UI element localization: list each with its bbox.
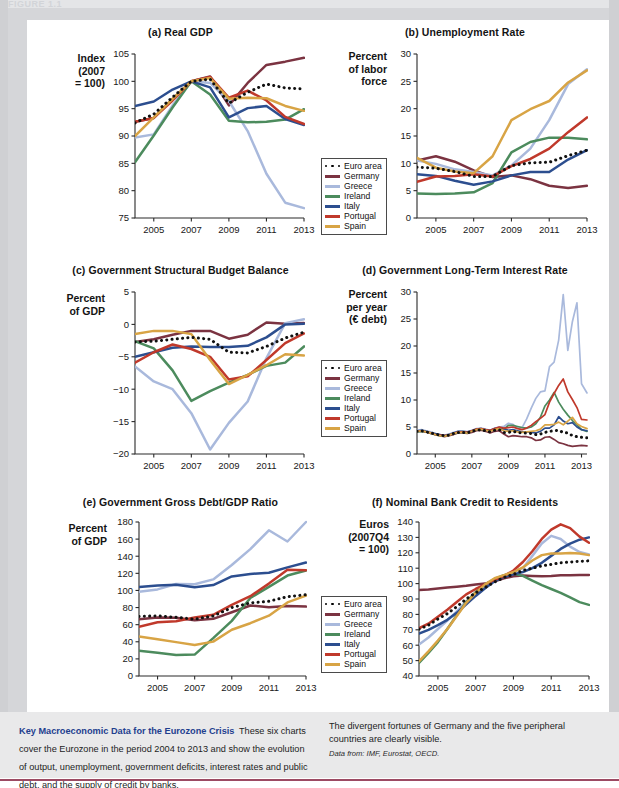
chart-svg-a: 758085909510010520052007200920112013: [43, 26, 318, 254]
y-tick-label: 95: [118, 103, 129, 114]
y-tick-label: 0: [406, 212, 411, 223]
series-line-germany: [135, 322, 304, 341]
y-tick-label: 75: [118, 212, 129, 223]
x-tick-label: 2007: [181, 224, 202, 235]
x-tick-label: 2005: [425, 460, 446, 471]
chart-panel-b: (b) Unemployment RatePercent of labor fo…: [321, 26, 609, 254]
x-tick-label: 2013: [293, 224, 314, 235]
x-tick-label: 2013: [295, 682, 316, 693]
y-tick-label: 25: [400, 313, 411, 324]
y-tick-label: −10: [113, 384, 129, 395]
figure-inner-panel: (a) Real GDPIndex (2007 = 100)7580859095…: [27, 20, 609, 712]
chart-svg-c: −20−15−10−50520052007200920112013: [43, 264, 318, 490]
y-tick-label: 100: [117, 585, 133, 596]
chart-panel-f: (f) Nominal Bank Credit to ResidentsEuro…: [321, 496, 609, 712]
y-tick-label: 80: [122, 602, 133, 613]
x-tick-label: 2009: [221, 682, 242, 693]
x-tick-label: 2011: [256, 224, 276, 235]
caption-band: Key Macroeconomic Data for the Eurozone …: [0, 712, 619, 778]
y-tick-label: 80: [118, 185, 129, 196]
x-tick-label: 2005: [143, 224, 164, 235]
y-tick-label: 140: [397, 516, 413, 527]
x-tick-label: 2013: [293, 460, 314, 471]
x-tick-label: 2009: [218, 224, 239, 235]
y-tick-label: 130: [397, 532, 413, 543]
x-tick-label: 2013: [578, 682, 599, 693]
y-tick-label: 10: [400, 394, 411, 405]
y-tick-label: 0: [128, 670, 133, 681]
y-tick-label: 60: [122, 619, 133, 630]
caption-left-column: Key Macroeconomic Data for the Eurozone …: [19, 720, 311, 788]
x-tick-label: 2011: [539, 224, 559, 235]
y-tick-label: 15: [400, 367, 411, 378]
y-tick-label: 10: [400, 158, 411, 169]
x-tick-label: 2009: [498, 460, 519, 471]
y-tick-label: 5: [406, 421, 411, 432]
page-left-shade: [0, 0, 8, 712]
series-line-greece: [417, 295, 587, 435]
y-tick-label: 0: [124, 319, 129, 330]
y-tick-label: 5: [124, 286, 129, 297]
x-tick-label: 2013: [576, 224, 597, 235]
x-tick-label: 2007: [465, 682, 486, 693]
x-tick-label: 2005: [427, 682, 448, 693]
y-tick-label: 20: [400, 103, 411, 114]
y-tick-label: 105: [113, 48, 129, 59]
series-group: [135, 319, 304, 449]
x-tick-label: 2005: [143, 460, 164, 471]
series-group: [417, 69, 587, 194]
y-tick-label: −5: [118, 351, 129, 362]
x-tick-label: 2005: [425, 224, 446, 235]
x-tick-label: 2011: [535, 460, 555, 471]
series-line-italy: [419, 537, 589, 633]
y-tick-label: 5: [406, 185, 411, 196]
x-tick-label: 2013: [571, 460, 592, 471]
figure-frame: (a) Real GDPIndex (2007 = 100)7580859095…: [8, 8, 609, 712]
caption-body-right: The divergent fortunes of Germany and th…: [329, 720, 599, 745]
series-line-greece: [419, 536, 589, 645]
x-tick-label: 2009: [501, 224, 522, 235]
y-tick-label: 110: [398, 563, 413, 574]
y-tick-label: 40: [402, 670, 413, 681]
y-tick-label: 20: [400, 340, 411, 351]
caption-right-column: The divergent fortunes of Germany and th…: [329, 720, 599, 788]
y-tick-label: 50: [402, 655, 413, 666]
series-group: [139, 522, 306, 655]
chart-panel-c: (c) Government Structural Budget Balance…: [43, 264, 318, 490]
y-tick-label: 160: [117, 534, 133, 545]
page-right-shade: [609, 0, 619, 712]
series-group: [417, 295, 587, 447]
series-line-spain: [139, 596, 306, 645]
y-tick-label: 90: [402, 593, 413, 604]
y-tick-label: 20: [122, 653, 133, 664]
y-tick-label: 15: [400, 130, 411, 141]
caption-source: Data from: IMF, Eurostat, OECD.: [329, 749, 599, 758]
series-line-portugal: [417, 117, 587, 182]
caption-lead: Key Macroeconomic Data for the Eurozone …: [19, 726, 234, 736]
bottom-rule: [0, 779, 619, 781]
chart-panel-d: (d) Government Long-Term Interest RatePe…: [321, 264, 609, 490]
y-tick-label: 120: [397, 547, 413, 558]
series-line-spain: [419, 553, 589, 661]
x-tick-label: 2007: [184, 682, 205, 693]
x-tick-label: 2009: [218, 460, 239, 471]
y-tick-label: 70: [402, 624, 413, 635]
y-tick-label: 90: [118, 130, 129, 141]
y-tick-label: 30: [400, 286, 411, 297]
y-tick-label: 180: [117, 516, 133, 527]
series-group: [135, 58, 304, 208]
series-group: [419, 524, 589, 663]
chart-svg-f: 4050607080901001101201301402005200720092…: [321, 496, 609, 712]
y-tick-label: 140: [117, 551, 133, 562]
y-tick-label: 30: [400, 48, 411, 59]
y-tick-label: −15: [113, 416, 129, 427]
x-tick-label: 2007: [463, 224, 484, 235]
y-tick-label: 0: [406, 448, 411, 459]
chart-panel-e: (e) Government Gross Debt/GDP RatioPerce…: [43, 496, 318, 712]
y-tick-label: 25: [400, 76, 411, 87]
y-tick-label: 100: [397, 578, 413, 589]
charts-grid: (a) Real GDPIndex (2007 = 100)7580859095…: [27, 20, 609, 712]
chart-svg-b: 05101520253020052007200920112013: [321, 26, 609, 254]
x-tick-label: 2009: [503, 682, 524, 693]
chart-panel-a: (a) Real GDPIndex (2007 = 100)7580859095…: [43, 26, 318, 254]
